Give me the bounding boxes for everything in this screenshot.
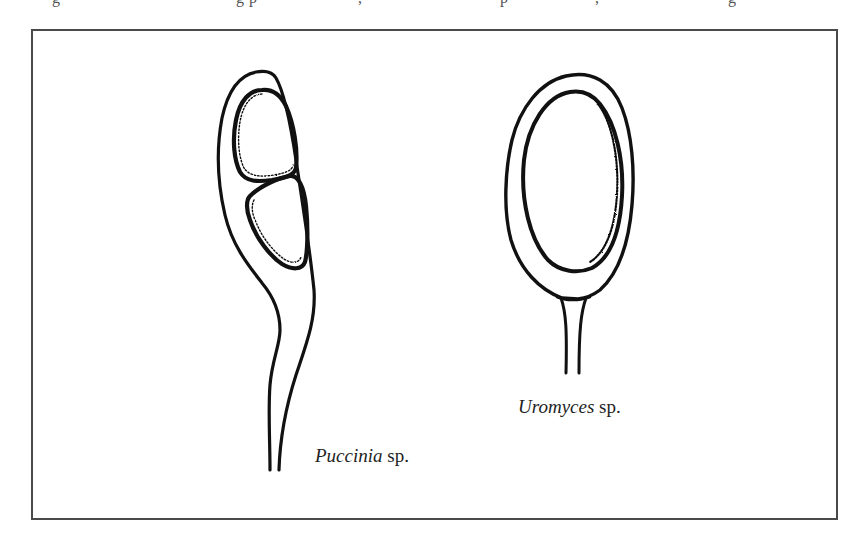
puccinia-suffix: sp. — [383, 445, 409, 466]
uromyces-pedicel-right — [579, 298, 586, 373]
puccinia-teliospore-drawing — [218, 71, 314, 470]
uromyces-pedicel-left — [561, 298, 566, 373]
spore-illustration — [0, 0, 859, 552]
puccinia-label: Puccinia sp. — [315, 445, 409, 467]
uromyces-label: Uromyces sp. — [518, 396, 621, 418]
uromyces-genus: Uromyces — [518, 396, 594, 417]
uromyces-suffix: sp. — [594, 396, 620, 417]
uromyces-teliospore-drawing — [506, 74, 633, 373]
puccinia-genus: Puccinia — [315, 445, 383, 466]
